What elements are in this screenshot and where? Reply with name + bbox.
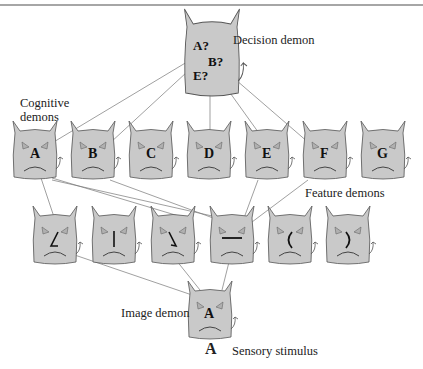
cognitive-letter-c: C	[146, 146, 156, 161]
feature-demon-left-curve	[268, 206, 318, 264]
cognitive-letter-d: D	[204, 146, 214, 161]
feature-demon-slant-right	[151, 206, 201, 264]
cognitive-letter-f: F	[320, 146, 329, 161]
sensory-stimulus-label: Sensory stimulus	[232, 344, 318, 358]
feature-demon-slant-left	[33, 206, 83, 264]
cognitive-letter-b: B	[88, 146, 97, 161]
cognitive-label-line2: demons	[20, 110, 69, 124]
cognitive-letter-e: E	[262, 146, 271, 161]
feature-demon-right-curve	[326, 206, 376, 264]
decision-line-b: B?	[208, 54, 223, 69]
image-demon-label: Image demon	[121, 306, 189, 320]
decision-line-e: E?	[193, 68, 208, 83]
image-demon-letter: A	[204, 306, 215, 321]
decision-demon-label: Decision demon	[233, 33, 315, 47]
decision-line-a: A?	[193, 38, 209, 53]
cognitive-letter-g: G	[377, 146, 388, 161]
feature-demons-label: Feature demons	[305, 186, 385, 200]
feature-image-connections	[60, 250, 232, 296]
stimulus-letter: A	[205, 342, 217, 356]
feature-demon-horizontal	[210, 206, 260, 264]
cognitive-demons-label: Cognitive demons	[20, 96, 69, 124]
feature-demon-vertical	[92, 206, 142, 264]
cognitive-label-line1: Cognitive	[20, 96, 69, 110]
pandemonium-diagram: A? B? E? A B C D E F G A	[0, 0, 423, 369]
cognitive-letter-a: A	[30, 146, 41, 161]
